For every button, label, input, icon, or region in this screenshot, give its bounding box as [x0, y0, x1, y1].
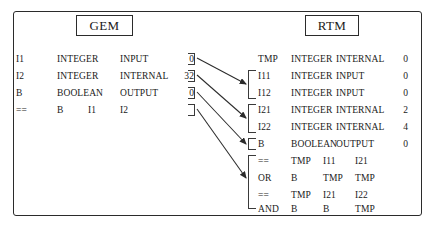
gem-decl-kind: OUTPUT — [120, 85, 158, 102]
gem-declaration-row: I1 INTEGER INPUT 0 — [16, 51, 201, 68]
gem-decl-name: I2 — [16, 68, 24, 85]
gem-op-dest: B — [57, 102, 63, 119]
rtm-decl-type: BOOLEAN — [291, 136, 337, 153]
rtm-decl-kind: INTERNAL — [336, 119, 384, 136]
rtm-decl-kind: INPUT — [336, 68, 364, 85]
rtm-decl-value: 4 — [398, 119, 408, 136]
rtm-op-dest: B — [291, 201, 297, 218]
gem-declaration-row: B BOOLEAN OUTPUT 0 — [16, 85, 201, 102]
rtm-target-bracket-internals — [248, 104, 256, 133]
gem-decl-kind: INPUT — [120, 51, 148, 68]
rtm-decl-value: 0 — [398, 85, 408, 102]
rtm-target-bracket-inputs — [248, 70, 256, 99]
rtm-operation-row: == TMP I11 I21 — [258, 153, 423, 170]
rtm-declaration-row: TMP INTEGER INTERNAL 0 — [258, 51, 423, 68]
rtm-decl-kind: INTERNAL — [336, 51, 384, 68]
rtm-decl-name: TMP — [258, 51, 278, 68]
rtm-op-dest: B — [291, 170, 297, 187]
gem-decl-name: I1 — [16, 51, 24, 68]
rtm-op-mnemonic: == — [258, 153, 269, 170]
rtm-op-src2: I21 — [355, 153, 368, 170]
rtm-title-label: RTM — [318, 18, 347, 33]
rtm-operation-row: AND B B TMP — [258, 201, 423, 218]
rtm-decl-name: B — [258, 136, 264, 153]
rtm-op-src1: B — [323, 201, 329, 218]
gem-decl-type: INTEGER — [57, 68, 98, 85]
rtm-decl-value: 2 — [398, 102, 408, 119]
rtm-decl-kind: INPUT — [336, 85, 364, 102]
rtm-decl-name: I11 — [258, 68, 271, 85]
rtm-declaration-row: I11 INTEGER INPUT 0 — [258, 68, 423, 85]
rtm-decl-type: INTEGER — [291, 85, 332, 102]
rtm-op-mnemonic: OR — [258, 170, 271, 187]
rtm-title-box: RTM — [305, 15, 359, 36]
rtm-op-src2: TMP — [355, 170, 375, 187]
gem-source-bracket — [188, 53, 195, 65]
gem-source-bracket — [188, 70, 195, 82]
gem-op-mnemonic: == — [16, 102, 27, 119]
gem-decl-kind: INTERNAL — [120, 68, 168, 85]
rtm-op-mnemonic: AND — [258, 201, 279, 218]
rtm-decl-name: I21 — [258, 102, 271, 119]
rtm-decl-type: INTEGER — [291, 51, 332, 68]
gem-title-box: GEM — [76, 15, 133, 36]
gem-declaration-row: I2 INTEGER INTERNAL 32 — [16, 68, 201, 85]
rtm-target-bracket-output — [248, 138, 256, 150]
rtm-decl-value: 0 — [398, 51, 408, 68]
rtm-op-src1: TMP — [323, 170, 343, 187]
rtm-op-dest: TMP — [291, 153, 311, 170]
rtm-decl-value: 0 — [398, 68, 408, 85]
rtm-decl-name: I12 — [258, 85, 271, 102]
gem-decl-type: INTEGER — [57, 51, 98, 68]
rtm-decl-type: INTEGER — [291, 119, 332, 136]
rtm-decl-value: 0 — [398, 136, 408, 153]
rtm-declaration-row: B BOOLEAN OUTPUT 0 — [258, 136, 423, 153]
rtm-decl-type: INTEGER — [291, 102, 332, 119]
gem-source-bracket — [188, 87, 195, 99]
refinement-mapping-figure: GEM RTM I1 INTEGER INPUT 0 I2 INTEGER IN… — [0, 0, 435, 233]
gem-decl-name: B — [16, 85, 22, 102]
gem-op-src1: I1 — [88, 102, 96, 119]
rtm-decl-type: INTEGER — [291, 68, 332, 85]
rtm-declaration-row: I12 INTEGER INPUT 0 — [258, 85, 423, 102]
rtm-declaration-row: I21 INTEGER INTERNAL 2 — [258, 102, 423, 119]
gem-decl-type: BOOLEAN — [57, 85, 103, 102]
rtm-op-src2: TMP — [355, 201, 375, 218]
gem-source-bracket — [188, 104, 195, 116]
rtm-operation-row: OR B TMP TMP — [258, 170, 423, 187]
rtm-decl-kind: INTERNAL — [336, 102, 384, 119]
rtm-decl-kind: OUTPUT — [336, 136, 374, 153]
gem-op-src2: I2 — [120, 102, 128, 119]
rtm-op-src1: I11 — [323, 153, 336, 170]
rtm-declaration-row: I22 INTEGER INTERNAL 4 — [258, 119, 423, 136]
rtm-decl-name: I22 — [258, 119, 271, 136]
rtm-target-bracket-operations — [248, 155, 256, 209]
gem-title-label: GEM — [89, 18, 119, 33]
gem-operation-row: == B I1 I2 — [16, 102, 201, 119]
